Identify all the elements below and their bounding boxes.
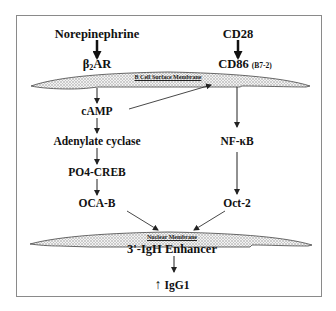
- b2ar-main: β: [83, 57, 90, 71]
- label-oca-b: OCA-B: [78, 198, 115, 210]
- b2ar-rest: AR: [93, 57, 111, 71]
- arrow-camp-to-cd86: [129, 85, 211, 109]
- label-camp: cAMP: [81, 106, 112, 118]
- pathway-graphics: [0, 0, 336, 311]
- label-cd28: CD28: [223, 28, 254, 41]
- label-cd86: CD86 (B7-2): [218, 58, 272, 71]
- label-oct2: Oct-2: [223, 198, 250, 210]
- up-arrow-icon: ↑: [155, 277, 162, 292]
- cd86-alias: (B7-2): [252, 61, 272, 70]
- cd86-name: CD86: [218, 57, 249, 71]
- label-norepinephrine: Norepinephrine: [55, 28, 140, 41]
- label-nuclear-membrane: Nuclear Membrane: [147, 234, 197, 240]
- label-adenylate-cyclase: Adenylate cyclase: [53, 136, 140, 148]
- label-b2ar: β2AR: [83, 58, 112, 72]
- igg1-text: IgG1: [164, 279, 189, 291]
- label-nfkb: NF-κB: [220, 136, 253, 148]
- label-3-igh-enhancer: 3'-IgH Enhancer: [127, 243, 217, 256]
- label-surface-membrane: B Cell Surface Membrane: [135, 74, 202, 80]
- label-po4-creb: PO4-CREB: [68, 167, 126, 179]
- label-igg1: ↑ IgG1: [155, 278, 190, 292]
- arrow-ocab-to-enhancer: [127, 211, 158, 230]
- arrow-oct2-to-enhancer: [194, 211, 225, 230]
